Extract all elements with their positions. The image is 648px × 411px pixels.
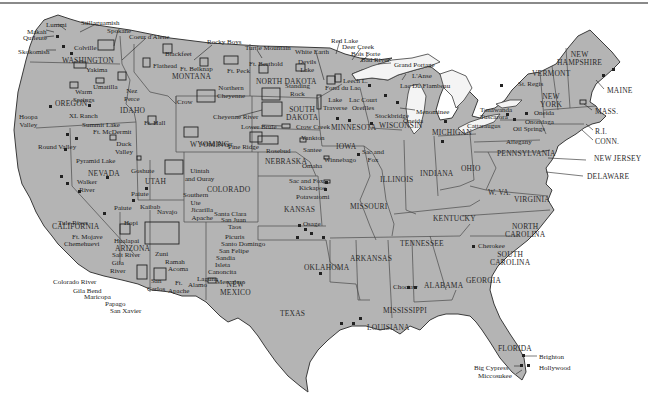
reservation-label: Cheyenne River [213, 113, 258, 121]
state-label-iowa: IOWA [336, 143, 356, 151]
state-label-michigan: MICHIGAN [432, 129, 472, 137]
reservation-label: Lower Brule [241, 123, 277, 131]
reservation-label: Miccosukee [478, 372, 512, 380]
reservation-label: Navajo [157, 208, 177, 216]
reservation-label: Ft. Belknap [180, 65, 213, 73]
state-label-mississippi: MISSISSIPPI [383, 307, 427, 315]
reservation-label: Oil Springs [513, 125, 545, 133]
reservation-label: Hualapai [114, 237, 139, 245]
reservation-label: St. Regis [518, 80, 543, 88]
reservation-label: Round Valley [38, 143, 76, 151]
state-label-nevada: NEVADA [88, 170, 120, 178]
state-label-massachusetts: MASS. [595, 108, 618, 116]
reservation-label: San Xavier [110, 307, 141, 315]
reservation-label: Skokomish [18, 48, 50, 56]
reservation-label: Flathead [153, 62, 177, 70]
reservation-label: Tule River [58, 219, 88, 227]
reservation-label: Hollywood [539, 364, 571, 372]
reservation-label: Pyramid Lake [76, 157, 115, 165]
reservation-label: Santee [303, 146, 322, 154]
state-label-south-dakota: SOUTHDAKOTA [286, 106, 318, 122]
reservation-label: WalkerRiver [77, 178, 97, 194]
state-label-missouri: MISSOURI [350, 203, 387, 211]
reservation-label: Yankton [301, 134, 324, 142]
reservation-label: Paiute [114, 204, 132, 212]
state-label-maine: MAINE [607, 87, 633, 95]
state-label-nebraska: NEBRASKA [265, 158, 307, 166]
reservation-label: Zuni [155, 250, 168, 258]
reservation-label: Oneida [534, 109, 554, 117]
reservation-label: DevilsLake [298, 58, 316, 74]
reservation-label: Alamo [188, 281, 207, 289]
reservation-label: Crow Creek [296, 123, 330, 131]
state-label-virginia: VIRGINIA [514, 196, 550, 204]
reservation-label: Mescalero [216, 278, 245, 286]
reservation-label: Menominee [416, 108, 449, 116]
reservation-label: Pine Ridge [228, 143, 259, 151]
reservation-label: StandingRock [285, 82, 310, 98]
reservation-label: Acoma [168, 265, 188, 273]
reservation-label: Rocky Boys [207, 38, 241, 46]
state-label-montana: MONTANA [172, 73, 211, 81]
state-label-new-york: NEWYORK [540, 93, 562, 109]
reservation-label: Salt River [112, 251, 140, 259]
reservation-label: Umatilla [93, 83, 118, 91]
state-label-ohio: OHIO [461, 165, 481, 173]
state-label-louisiana: LOUISIANA [367, 324, 410, 332]
reservation-label: NorthernCheyenne [217, 84, 245, 100]
reservation-label: Ft. Hall [144, 119, 165, 127]
reservation-label: Choctaw [393, 283, 418, 291]
state-label-tennessee: TENNESSEE [400, 240, 444, 248]
reservation-label: Oneida [403, 117, 423, 125]
reservation-label: Allegany [506, 138, 532, 146]
reservation-label: Turtle Mountain [245, 44, 291, 52]
reservation-label: Chemehuevi [64, 240, 99, 248]
reservation-label: Spokane [107, 27, 131, 35]
reservation-label: Colville [74, 44, 97, 52]
reservation-label: White Earth [295, 48, 329, 56]
reservation-label: XL Ranch [69, 112, 98, 120]
state-label-georgia: GEORGIA [466, 277, 501, 285]
state-label-connecticut: CONN. [595, 138, 619, 146]
state-label-indiana: INDIANA [420, 170, 453, 178]
reservation-label: JicarillaApache [191, 206, 213, 222]
state-label-north-carolina: NORTHCAROLINA [505, 223, 545, 239]
state-label-idaho: IDAHO [120, 107, 145, 115]
reservation-label: Taos [228, 223, 241, 231]
reservation-label: HoopaValley [19, 113, 38, 129]
state-label-alabama: ALABAMA [424, 282, 463, 290]
reservation-label: Potawatomi [296, 193, 329, 201]
reservation-label: Rosebud [266, 147, 291, 155]
state-label-minnesota: MINNESOTA [331, 124, 376, 132]
reservation-label: Yakima [86, 66, 107, 74]
reservation-label: Ft.Apache [168, 279, 189, 295]
state-label-new-jersey: NEW JERSEY [594, 155, 642, 163]
reservation-label: Ft. Berthold [249, 60, 283, 68]
reservation-label: Ft. Peck [227, 67, 250, 75]
reservation-label: Lummi [46, 21, 67, 29]
reservation-label: Colorado River [53, 278, 96, 286]
state-label-colorado: COLORADO [207, 186, 250, 194]
reservation-label: NezPerce [124, 87, 140, 103]
reservation-label: Crow [177, 98, 193, 106]
reservation-label: Tuscarora [480, 113, 508, 121]
reservation-label: Uintahand Ouray [185, 167, 214, 183]
reservation-label: Fond du Lac [325, 84, 360, 92]
reservation-label: GilaRiver [110, 259, 126, 275]
reservation-label: Hopi [124, 219, 138, 227]
reservation-label: Coeur d'Alene [129, 33, 169, 41]
state-label-rhode-island: R.I. [595, 128, 607, 136]
reservation-label: SanCarlos [147, 277, 165, 293]
reservation-label: Kickapoo [299, 184, 326, 192]
reservation-label: Cattaraugus [467, 122, 500, 130]
reservation-label: Grand Portage [394, 61, 435, 69]
reservation-label: DuckValley [115, 140, 133, 156]
reservation-label: SouthernUte [183, 191, 208, 207]
reservation-label: Goshute [131, 167, 154, 175]
state-label-texas: TEXAS [280, 310, 305, 318]
reservation-label: L'Anse [412, 72, 432, 80]
state-label-kentucky: KENTUCKY [433, 215, 476, 223]
reservation-label: Osage [303, 220, 321, 228]
reservation-label: Lac Du Flambeau [400, 82, 450, 90]
reservation-label: Omaha [302, 162, 322, 170]
